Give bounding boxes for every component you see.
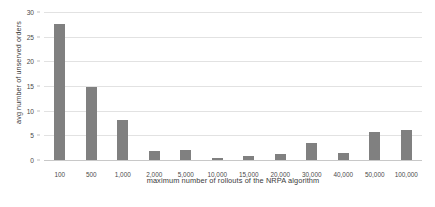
y-axis-tick-mark <box>37 12 40 13</box>
y-axis-tick-mark <box>37 86 40 87</box>
y-axis-tick-mark <box>37 135 40 136</box>
bar[interactable] <box>117 120 128 160</box>
bar-chart: avg number of unserved orders 0510152025… <box>0 0 435 207</box>
bar[interactable] <box>401 130 412 160</box>
y-axis-tick-label: 0 <box>30 157 34 164</box>
bar[interactable] <box>369 132 380 160</box>
bar-series <box>44 12 422 160</box>
bar-slot <box>265 12 297 160</box>
y-axis-tick-label: 5 <box>30 132 34 139</box>
y-axis-tick-label: 10 <box>27 107 34 114</box>
bar[interactable] <box>149 151 160 160</box>
bar[interactable] <box>54 24 65 160</box>
y-axis-tick-mark <box>37 61 40 62</box>
bar[interactable] <box>275 154 286 160</box>
plot-area <box>44 12 422 160</box>
gridline <box>44 160 422 161</box>
y-axis-tick-label: 30 <box>27 9 34 16</box>
y-axis-tick-mark <box>37 36 40 37</box>
y-axis-tick-labels: 051015202530 <box>0 12 40 160</box>
bar-slot <box>202 12 234 160</box>
bar-slot <box>76 12 108 160</box>
bar-slot <box>359 12 391 160</box>
y-axis-tick-mark <box>37 160 40 161</box>
y-axis-tick-label: 15 <box>27 83 34 90</box>
bar[interactable] <box>180 150 191 160</box>
bar-slot <box>328 12 360 160</box>
bar[interactable] <box>338 153 349 160</box>
y-axis-tick-label: 25 <box>27 33 34 40</box>
y-axis-tick-mark <box>37 110 40 111</box>
x-axis-title: maximum number of rollouts of the NRPA a… <box>44 176 422 185</box>
y-axis-tick-label: 20 <box>27 58 34 65</box>
bar-slot <box>170 12 202 160</box>
bar[interactable] <box>243 156 254 160</box>
bar-slot <box>296 12 328 160</box>
bar-slot <box>233 12 265 160</box>
bar[interactable] <box>306 143 317 160</box>
bar[interactable] <box>212 158 223 160</box>
bar-slot <box>139 12 171 160</box>
bar-slot <box>107 12 139 160</box>
bar[interactable] <box>86 87 97 160</box>
bar-slot <box>44 12 76 160</box>
bar-slot <box>391 12 423 160</box>
